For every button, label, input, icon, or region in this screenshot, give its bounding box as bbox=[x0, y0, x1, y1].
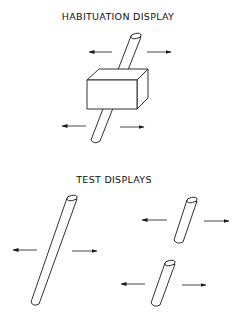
broken-rod-lower bbox=[121, 260, 206, 307]
complete-rod bbox=[13, 195, 97, 306]
test-displays bbox=[13, 195, 229, 307]
habituation-display bbox=[62, 33, 171, 143]
diagram-canvas bbox=[0, 0, 242, 318]
occluder-box bbox=[87, 69, 148, 109]
broken-rod-upper bbox=[142, 197, 229, 244]
